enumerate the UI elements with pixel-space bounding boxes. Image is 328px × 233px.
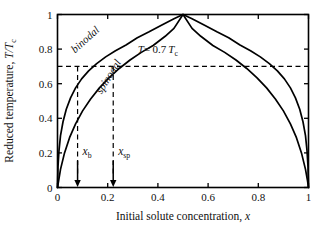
y-tick-label: 0 bbox=[47, 182, 53, 194]
y-tick-label: 1 bbox=[47, 9, 53, 21]
phase-diagram-chart: 00.20.40.60.81 00.20.40.60.81 binodalspi… bbox=[0, 0, 328, 233]
y-tick-label: 0.2 bbox=[39, 147, 53, 159]
x-tick-label: 0 bbox=[55, 191, 61, 203]
x-tick-label: 0.8 bbox=[251, 191, 265, 203]
x-tick-label: 0.2 bbox=[101, 191, 115, 203]
x-axis-title: Initial solute concentration, x bbox=[116, 210, 251, 223]
x-tick-label: 0.4 bbox=[151, 191, 165, 203]
figure-container: 00.20.40.60.81 00.20.40.60.81 binodalspi… bbox=[0, 0, 328, 233]
y-tick-label: 0.4 bbox=[39, 112, 53, 124]
x-tick-label: 1 bbox=[306, 191, 312, 203]
y-tick-label: 0.8 bbox=[39, 43, 53, 55]
x-tick-label: 0.6 bbox=[201, 191, 215, 203]
y-tick-label: 0.6 bbox=[39, 78, 53, 90]
